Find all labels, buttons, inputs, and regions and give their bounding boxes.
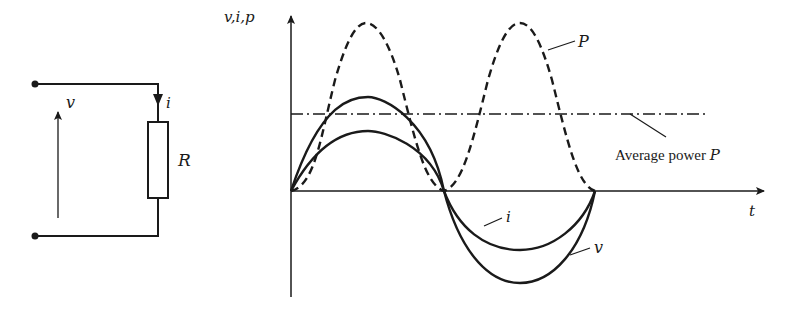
current-leader: [484, 218, 502, 226]
resistor-label: R: [177, 150, 191, 170]
power-curve-label: P: [577, 32, 589, 51]
top-wire: [35, 84, 158, 122]
power-leader: [548, 41, 575, 50]
current-label: i: [166, 94, 171, 112]
current-arrow-icon: [153, 94, 163, 106]
average-power-label: Average power P: [615, 146, 721, 164]
resistive-ac-power-diagram: v i R v,i,p t P Average power P i v: [0, 0, 793, 318]
voltage-curve-label: v: [594, 238, 603, 257]
power-curve: [291, 23, 595, 191]
circuit: v i R: [32, 81, 192, 240]
y-axis-label: v,i,p: [224, 8, 255, 26]
average-power-leader: [630, 114, 666, 137]
current-curve-label: i: [506, 208, 511, 226]
x-axis-label: t: [749, 202, 756, 220]
waveform-graph: v,i,p t P Average power P i v: [224, 8, 764, 297]
bottom-wire: [35, 198, 158, 236]
resistor: [148, 122, 168, 198]
voltage-label: v: [66, 93, 75, 112]
